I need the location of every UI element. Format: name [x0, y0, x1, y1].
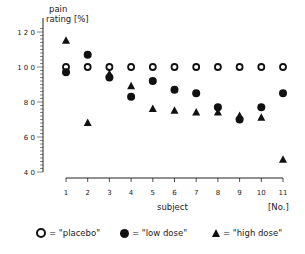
data-points	[62, 36, 287, 163]
placebo-point	[128, 64, 134, 70]
placebo-point	[280, 64, 286, 70]
placebo-point	[172, 64, 178, 70]
x-tick-label: 7	[194, 189, 198, 197]
low-dose-point	[127, 93, 135, 101]
x-axis-title: subject	[157, 202, 188, 212]
legend-item-placebo: = "placebo"	[36, 228, 100, 238]
y-axis-title-line1: pain	[49, 4, 67, 14]
low-dose-point	[279, 89, 287, 97]
high-dose-point	[105, 70, 113, 78]
high-dose-point	[149, 105, 157, 113]
x-tick-label: 1	[64, 189, 68, 197]
filled-circle-icon	[120, 229, 129, 238]
low-dose-point	[192, 89, 200, 97]
y-tick-label: 6 0	[24, 134, 35, 142]
placebo-point	[106, 64, 112, 70]
x-tick-label: 10	[257, 189, 266, 197]
high-dose-point	[127, 82, 135, 90]
legend-item-low-dose: = "low dose"	[120, 228, 187, 238]
high-dose-point	[171, 106, 179, 114]
high-dose-point	[62, 36, 70, 44]
placebo-point	[193, 64, 199, 70]
placebo-point	[85, 64, 91, 70]
high-dose-point	[279, 155, 287, 163]
x-axis: 1234567891011	[64, 178, 288, 197]
x-tick-label: 9	[237, 189, 241, 197]
legend-item-high-dose: = "high dose"	[212, 228, 282, 238]
x-axis-unit: [No.]	[268, 202, 289, 212]
y-axis: 4 06 08 01 0 01 2 0	[17, 18, 43, 177]
y-axis-title-line2: rating [%]	[46, 14, 89, 24]
placebo-point	[215, 64, 221, 70]
high-dose-point	[236, 112, 244, 120]
legend: = "placebo" = "low dose" = "high dose"	[0, 228, 305, 248]
low-dose-point	[257, 103, 265, 111]
x-tick-label: 4	[129, 189, 134, 197]
high-dose-point	[192, 108, 200, 116]
y-tick-label: 4 0	[24, 169, 35, 177]
x-tick-label: 11	[279, 189, 288, 197]
x-tick-label: 6	[172, 189, 177, 197]
low-dose-point	[84, 51, 92, 59]
legend-label-placebo: = "placebo"	[49, 228, 100, 238]
high-dose-point	[257, 113, 265, 121]
x-tick-label: 8	[216, 189, 220, 197]
legend-label-low-dose: = "low dose"	[132, 228, 187, 238]
y-tick-label: 1 0 0	[17, 64, 35, 72]
x-tick-label: 5	[151, 189, 155, 197]
triangle-icon	[212, 229, 220, 237]
placebo-point	[258, 64, 264, 70]
low-dose-point	[62, 68, 70, 76]
open-circle-icon	[36, 228, 46, 238]
low-dose-point	[149, 77, 157, 85]
low-dose-point	[171, 86, 179, 94]
high-dose-point	[84, 119, 92, 127]
pain-rating-chart: 4 06 08 01 0 01 2 0 1234567891011 pain r…	[0, 0, 305, 254]
placebo-point	[150, 64, 156, 70]
placebo-point	[237, 64, 243, 70]
x-tick-label: 2	[85, 189, 89, 197]
legend-label-high-dose: = "high dose"	[223, 228, 282, 238]
y-tick-label: 1 2 0	[17, 29, 35, 37]
y-tick-label: 8 0	[24, 99, 35, 107]
x-tick-label: 3	[107, 189, 111, 197]
